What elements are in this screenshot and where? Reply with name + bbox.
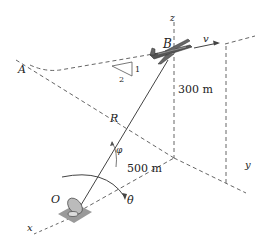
y-axis-label: y xyxy=(245,160,251,170)
x-axis-label: x xyxy=(27,223,33,233)
ground-path-line xyxy=(16,60,174,158)
slope-triangle xyxy=(112,62,132,76)
point-a-label: A xyxy=(18,64,26,75)
diagram-canvas: z B v A 1 2 300 m R φ 500 m y O θ̇ x xyxy=(0,0,265,238)
distance-label: 500 m xyxy=(127,163,162,174)
velocity-arrowhead xyxy=(213,41,220,46)
range-label: R xyxy=(110,113,118,124)
y-axis-line xyxy=(174,158,246,193)
flight-path-line xyxy=(30,52,165,70)
height-label: 300 m xyxy=(178,84,213,95)
radar-base xyxy=(68,212,78,217)
point-b-label: B xyxy=(163,38,172,50)
theta-dot-label: θ̇ xyxy=(127,195,134,206)
flight-path-extension xyxy=(225,36,255,44)
slope-rise-label: 1 xyxy=(135,66,140,74)
z-axis-label: z xyxy=(170,14,175,23)
slope-run-label: 2 xyxy=(119,76,124,84)
phi-label: φ xyxy=(116,146,122,155)
point-o-label: O xyxy=(51,194,60,205)
velocity-label: v xyxy=(203,34,209,44)
